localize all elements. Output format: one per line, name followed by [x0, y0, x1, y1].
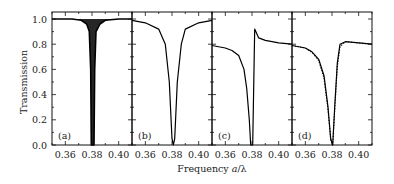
- y-tick-label: 0.8: [32, 39, 47, 50]
- x-tick-label: 0.36: [135, 149, 156, 160]
- x-tick-label: 0.40: [348, 149, 369, 160]
- x-tick-label: 0.38: [321, 149, 342, 160]
- panel-label: (a): [58, 130, 71, 141]
- x-tick-label: 0.40: [268, 149, 289, 160]
- x-tick-label: 0.38: [241, 149, 262, 160]
- y-tick-label: 0.2: [32, 114, 47, 125]
- y-tick-label: 1.0: [32, 14, 47, 25]
- panel-frame: [292, 12, 372, 145]
- x-tick-label: 0.40: [188, 149, 209, 160]
- y-axis-ticks: 0.00.20.40.60.81.0: [32, 14, 372, 151]
- panel-label: (c): [218, 130, 231, 141]
- x-tick-label: 0.36: [55, 149, 76, 160]
- x-tick-label: 0.38: [81, 149, 102, 160]
- x-tick-label: 0.40: [108, 149, 129, 160]
- panel-frame: [212, 12, 292, 145]
- x-tick-label: 0.36: [295, 149, 316, 160]
- x-axis-title: Frequency a/λ: [177, 163, 246, 174]
- y-tick-label: 0.0: [32, 140, 47, 151]
- y-axis-title: Transmission: [18, 50, 29, 114]
- y-tick-label: 0.6: [32, 64, 47, 75]
- x-tick-label: 0.38: [161, 149, 182, 160]
- panel-labels: (a)(b)(c)(d): [58, 130, 312, 141]
- panel-frame: [132, 12, 212, 145]
- transmission-figure: 0.00.20.40.60.81.0 0.360.380.400.360.380…: [0, 0, 394, 184]
- panel-label: (b): [138, 130, 152, 141]
- y-tick-label: 0.4: [32, 89, 47, 100]
- dense-oscillation-fill: [52, 19, 132, 145]
- curve-transmission: [212, 29, 292, 145]
- curve-transmission: [132, 20, 212, 145]
- panel-label: (d): [298, 130, 312, 141]
- x-tick-label: 0.36: [215, 149, 236, 160]
